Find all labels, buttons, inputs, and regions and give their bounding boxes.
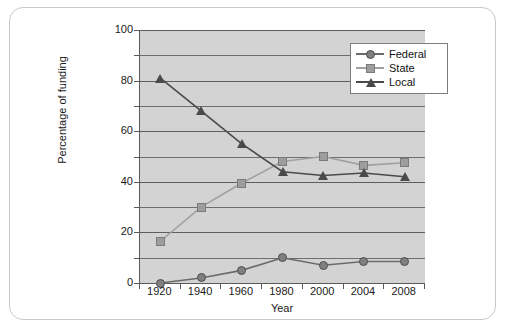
legend-label: State — [385, 63, 415, 74]
data-point-square — [319, 152, 328, 161]
y-axis-tick — [134, 106, 139, 107]
y-axis-tick-label: 0 — [103, 277, 133, 288]
data-point-square — [278, 157, 287, 166]
data-point-triangle — [196, 106, 206, 115]
y-axis-tick — [134, 258, 139, 259]
y-axis-tick — [134, 182, 139, 183]
data-point-square — [197, 203, 206, 212]
y-axis-title: Percentage of funding — [56, 50, 68, 170]
y-axis-tick-label: 100 — [103, 24, 133, 35]
data-point-square — [237, 179, 246, 188]
x-axis-tick-labels: 1920194019601980200020042008 — [139, 286, 425, 302]
x-axis-tick-label: 2008 — [383, 286, 424, 297]
y-axis-tick — [134, 81, 139, 82]
data-point-square — [400, 158, 409, 167]
y-axis-tick — [134, 30, 139, 31]
y-axis-tick-labels: 020406080100 — [101, 30, 133, 283]
line-chart: 020406080100 Percentage of funding 19201… — [10, 8, 497, 321]
data-point-triangle — [400, 172, 410, 181]
data-point-triangle — [278, 167, 288, 176]
data-point-triangle — [318, 171, 328, 180]
y-axis-tick-label: 60 — [103, 125, 133, 136]
legend-swatch-circle-icon — [355, 48, 385, 60]
y-axis-tick — [134, 131, 139, 132]
x-axis-tick-label: 1920 — [139, 286, 180, 297]
figure-card: 020406080100 Percentage of funding 19201… — [9, 7, 496, 320]
legend: FederalStateLocal — [350, 43, 448, 94]
y-axis-tick — [134, 55, 139, 56]
data-point-circle — [197, 273, 206, 282]
x-axis-tick-label: 1980 — [261, 286, 302, 297]
legend-label: Federal — [385, 49, 426, 60]
data-point-triangle — [237, 139, 247, 148]
y-axis-tick — [134, 207, 139, 208]
x-axis-tick-label: 1960 — [220, 286, 261, 297]
y-axis-tick-label: 40 — [103, 176, 133, 187]
y-axis-tick-label: 80 — [103, 75, 133, 86]
legend-swatch-square-icon — [355, 62, 385, 74]
legend-label: Local — [385, 77, 415, 88]
data-point-triangle — [359, 168, 369, 177]
data-point-square — [156, 237, 165, 246]
legend-item-local[interactable]: Local — [355, 75, 443, 89]
y-axis-tick-label: 20 — [103, 226, 133, 237]
data-point-circle — [319, 261, 328, 270]
legend-item-federal[interactable]: Federal — [355, 47, 443, 61]
y-axis-tick — [134, 157, 139, 158]
x-axis-title: Year — [139, 302, 425, 314]
y-axis-tick — [134, 232, 139, 233]
legend-item-state[interactable]: State — [355, 61, 443, 75]
legend-swatch-triangle-icon — [355, 76, 385, 88]
x-axis-tick-label: 2000 — [302, 286, 343, 297]
x-axis-tick-label: 2004 — [343, 286, 384, 297]
data-point-triangle — [155, 74, 165, 83]
x-axis-tick-label: 1940 — [180, 286, 221, 297]
